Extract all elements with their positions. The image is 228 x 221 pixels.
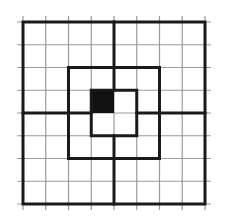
filled-cells [91, 90, 114, 113]
black-cell [91, 90, 114, 113]
grid-diagram [0, 0, 228, 221]
